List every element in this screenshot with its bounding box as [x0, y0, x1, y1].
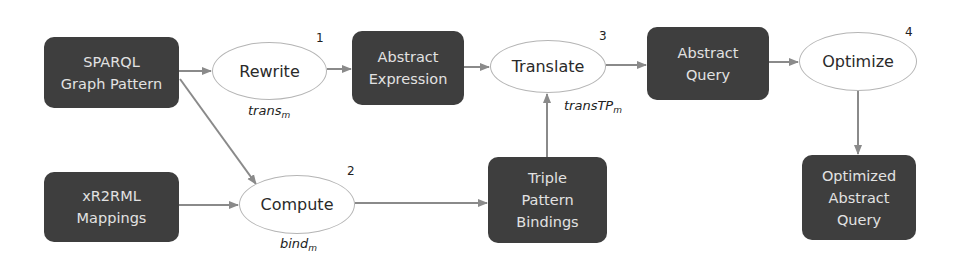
node-sparql-graph-pattern: SPARQL Graph Pattern	[44, 37, 179, 108]
node-translate: Translate	[490, 40, 606, 93]
node-label: Compute	[261, 195, 334, 214]
node-label-line: Query	[837, 209, 881, 231]
node-optimize: Optimize	[799, 32, 917, 91]
node-compute: Compute	[239, 175, 355, 234]
node-label-line: Bindings	[516, 211, 578, 233]
node-abstract-query: Abstract Query	[647, 27, 769, 100]
query-translation-diagram: SPARQL Graph Pattern xR2RML Mappings Rew…	[0, 0, 954, 266]
step-number-2: 2	[347, 164, 355, 178]
node-rewrite: Rewrite	[212, 42, 327, 100]
node-label-line: SPARQL	[83, 51, 140, 73]
node-label-line: Abstract	[678, 42, 739, 64]
node-label-line: Abstract	[829, 187, 890, 209]
node-abstract-expression: Abstract Expression	[352, 31, 464, 105]
node-label: Translate	[512, 57, 585, 76]
node-label-line: xR2RML	[82, 185, 141, 207]
node-label-line: Expression	[369, 68, 448, 90]
node-label-line: Graph Pattern	[61, 73, 162, 95]
node-label: Optimize	[822, 52, 894, 71]
step-number-1: 1	[316, 31, 324, 45]
node-optimized-abstract-query: Optimized Abstract Query	[802, 155, 916, 240]
step-number-3: 3	[599, 29, 607, 43]
node-label-line: Mappings	[77, 207, 147, 229]
node-label-line: Triple	[528, 167, 567, 189]
function-label-bind: bindm	[280, 236, 317, 253]
node-label-line: Optimized	[822, 165, 896, 187]
node-triple-pattern-bindings: Triple Pattern Bindings	[488, 157, 607, 243]
node-label-line: Pattern	[521, 189, 573, 211]
node-label: Rewrite	[239, 62, 299, 81]
step-number-4: 4	[905, 25, 913, 39]
node-label-line: Query	[686, 64, 730, 86]
node-label-line: Abstract	[378, 46, 439, 68]
function-label-transtp: transTPm	[564, 98, 622, 115]
function-label-trans: transm	[248, 103, 290, 120]
node-xr2rml-mappings: xR2RML Mappings	[44, 172, 179, 242]
